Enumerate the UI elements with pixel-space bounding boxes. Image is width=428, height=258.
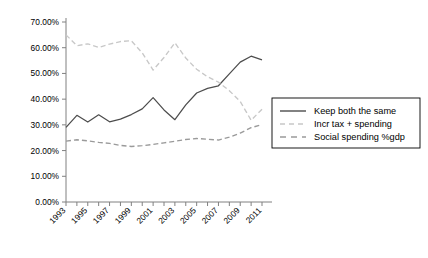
x-axis-label: 2009 [221, 205, 241, 225]
y-axis-label: 10.00% [31, 171, 60, 181]
y-axis-label: 0.00% [35, 197, 59, 207]
x-axis-label: 1993 [47, 205, 67, 225]
y-axis-label: 50.00% [31, 68, 60, 78]
y-axis-label: 30.00% [31, 120, 60, 130]
x-axis-label: 2011 [244, 205, 264, 225]
x-axis-label: 2005 [178, 205, 198, 225]
y-axis-label: 60.00% [31, 43, 60, 53]
line-chart: 0.00%10.00%20.00%30.00%40.00%50.00%60.00… [0, 0, 428, 258]
x-axis-label: 1997 [91, 205, 111, 225]
x-axis-label: 1999 [112, 205, 132, 225]
x-axis-label: 1995 [69, 205, 89, 225]
chart-container: 0.00%10.00%20.00%30.00%40.00%50.00%60.00… [0, 0, 428, 258]
x-axis-label: 2003 [156, 205, 176, 225]
series-line-keep-both-the-same [66, 56, 262, 127]
series-line-social-spending-gdp [66, 125, 262, 147]
x-axis-label: 2001 [134, 205, 154, 225]
legend-label-1: Incr tax + spending [314, 119, 392, 129]
y-axis-label: 20.00% [31, 146, 60, 156]
legend-label-2: Social spending %gdp [314, 132, 405, 142]
x-axis-label: 2007 [200, 205, 220, 225]
y-axis-label: 40.00% [31, 94, 60, 104]
series-line-incr-tax-spending [66, 35, 262, 120]
legend-label-0: Keep both the same [314, 106, 396, 116]
y-axis-label: 70.00% [31, 17, 60, 27]
